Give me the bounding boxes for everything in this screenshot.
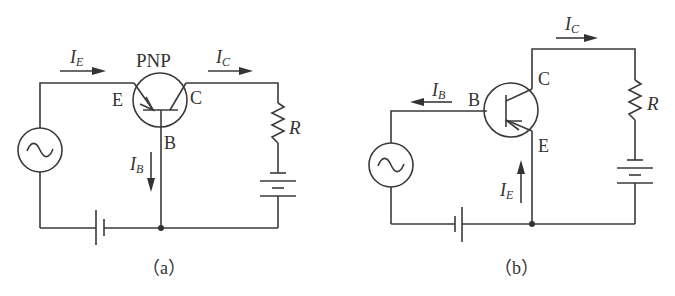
pnp-transistor-icon — [133, 73, 187, 127]
battery-icon-output — [260, 173, 296, 196]
label-base-a: B — [164, 133, 176, 153]
arrow-ic-a — [208, 67, 253, 75]
label-pnp: PNP — [136, 50, 171, 71]
arrow-ie-b — [517, 160, 525, 203]
battery-icon-output — [617, 160, 653, 183]
battery-icon-input — [96, 210, 104, 245]
label-collector-a: C — [190, 88, 202, 108]
label-ic-b: IC — [564, 14, 580, 36]
label-resistor-b: R — [646, 93, 659, 114]
label-resistor-a: R — [288, 117, 301, 138]
label-ib-b: IB — [431, 80, 446, 102]
label-ie-a: IE — [69, 47, 84, 69]
label-collector-b: C — [538, 69, 550, 89]
circuit-diagram: PNP E C B R IE IC IB （a） — [0, 0, 675, 296]
label-ib-a: IB — [129, 154, 144, 176]
label-base-b: B — [468, 90, 480, 110]
caption-a: （a） — [142, 258, 186, 278]
label-emitter-a: E — [112, 90, 123, 110]
arrow-ib-b — [410, 98, 452, 106]
label-emitter-b: E — [538, 136, 549, 156]
resistor-icon — [272, 103, 284, 143]
pnp-transistor-icon — [484, 83, 538, 137]
resistor-icon — [629, 80, 641, 120]
junction-dot — [158, 225, 164, 231]
battery-icon-input — [455, 207, 462, 242]
junction-dot — [529, 221, 535, 227]
ac-source-icon — [18, 128, 62, 172]
label-ic-a: IC — [215, 47, 231, 69]
caption-b: （b） — [494, 258, 539, 278]
ac-source-icon — [369, 143, 413, 187]
panel-a: PNP E C B R IE IC IB （a） — [18, 47, 301, 278]
label-ie-b: IE — [499, 180, 514, 202]
arrow-ib-a — [147, 152, 155, 192]
circuit-a-wires — [40, 83, 278, 228]
panel-b: B C E R IC IB IE （b） — [369, 14, 659, 278]
